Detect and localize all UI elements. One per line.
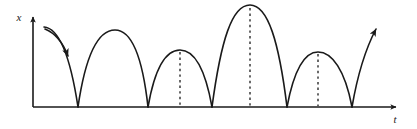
final-ascent-arc [352, 29, 376, 107]
trajectory-path-group [44, 5, 376, 107]
bouncing-ball-figure: x t [0, 0, 417, 129]
initial-descent-arc [44, 27, 78, 107]
y-axis-label: x [16, 11, 22, 23]
arc-4 [287, 52, 352, 107]
x-axis-label: t [393, 113, 397, 125]
trajectory-diagram: x t [0, 0, 417, 129]
arc-1 [78, 30, 148, 107]
apex-dashed-lines [180, 8, 318, 106]
